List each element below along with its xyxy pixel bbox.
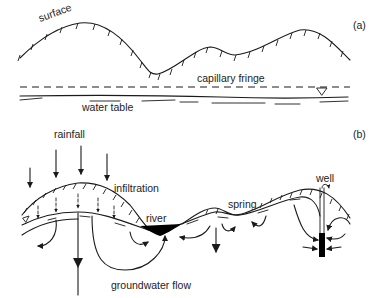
panel-a-tag: (a)	[353, 19, 366, 31]
water-table-label: water table	[81, 101, 134, 113]
groundwater-flow-label: groundwater flow	[111, 279, 191, 291]
spring-label: spring	[228, 198, 257, 210]
rainfall-arrow-icon	[30, 146, 107, 187]
water-table-triangle-icon	[23, 216, 29, 222]
well-label: well	[315, 172, 334, 184]
panel-a: (a) surface	[18, 1, 366, 113]
capillary-fringe-label: capillary fringe	[197, 72, 265, 84]
groundwater-diagram: (a) surface	[0, 0, 377, 298]
rainfall-label: rainfall	[54, 128, 85, 140]
ground-surface	[20, 23, 350, 74]
river-label: river	[146, 212, 167, 224]
infiltration-arrow-icon	[38, 194, 114, 218]
river-icon	[140, 224, 182, 236]
water-table-triangle-icon	[317, 88, 327, 95]
surface-label: surface	[37, 1, 74, 24]
well-icon	[319, 184, 329, 257]
hill-surface-middle	[182, 189, 350, 224]
panel-b-tag: (b)	[353, 128, 366, 140]
infiltration-label: infiltration	[114, 182, 159, 194]
panel-b: (b) rainfall infiltration	[22, 128, 366, 295]
water-table-dashes	[20, 98, 348, 104]
water-table-line	[20, 95, 348, 98]
